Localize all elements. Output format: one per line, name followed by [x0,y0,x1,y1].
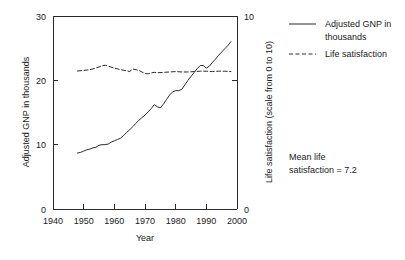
y-axis-left-title: Adjusted GNP in thousands [21,56,31,167]
series-life-satisfaction [78,65,231,74]
x-axis-title: Year [136,233,154,243]
y-axis-right-ticks: 010 [232,12,254,215]
x-axis-ticks: 1940195019601970198019902000 [43,204,247,226]
chart-figure: 0102030 010 1940195019601970198019902000… [0,0,405,260]
y-axis-right-tick-label: 10 [244,12,254,22]
y-axis-right-title: Life satisfaction (scale from 0 to 10) [264,41,274,183]
x-axis-tick-label: 1970 [135,216,155,226]
y-axis-left-tick-label: 20 [36,76,46,86]
axis-frame [53,16,237,209]
x-axis-tick-label: 1990 [196,216,216,226]
y-axis-left-ticks: 0102030 [36,12,58,215]
y-axis-left-tick-label: 30 [36,12,46,22]
y-axis-left-tick-label: 10 [36,140,46,150]
chart-legend: Adjusted GNP in thousands Life satisfact… [289,19,391,59]
annotation-line1: Mean life [289,152,326,162]
x-axis-tick-label: 1950 [74,216,94,226]
y-axis-right-tick-label: 0 [244,205,249,215]
series-adjusted-gnp [78,42,231,153]
y-axis-left-tick-label: 0 [41,205,46,215]
legend-label-life-satisfaction: Life satisfaction [325,49,387,59]
gnp-life-satisfaction-line-chart: 0102030 010 1940195019601970198019902000… [0,0,405,260]
x-axis-tick-label: 1980 [166,216,186,226]
x-axis-tick-label: 2000 [227,216,247,226]
mean-life-satisfaction-annotation: Mean life satisfaction = 7.2 [289,152,357,175]
x-axis-tick-label: 1960 [104,216,124,226]
x-axis-tick-label: 1940 [43,216,63,226]
legend-label-adjusted-gnp-line2: thousands [325,32,367,42]
plot-frame [53,16,237,209]
annotation-line2: satisfaction = 7.2 [289,165,357,175]
legend-label-adjusted-gnp-line1: Adjusted GNP in [325,19,391,29]
